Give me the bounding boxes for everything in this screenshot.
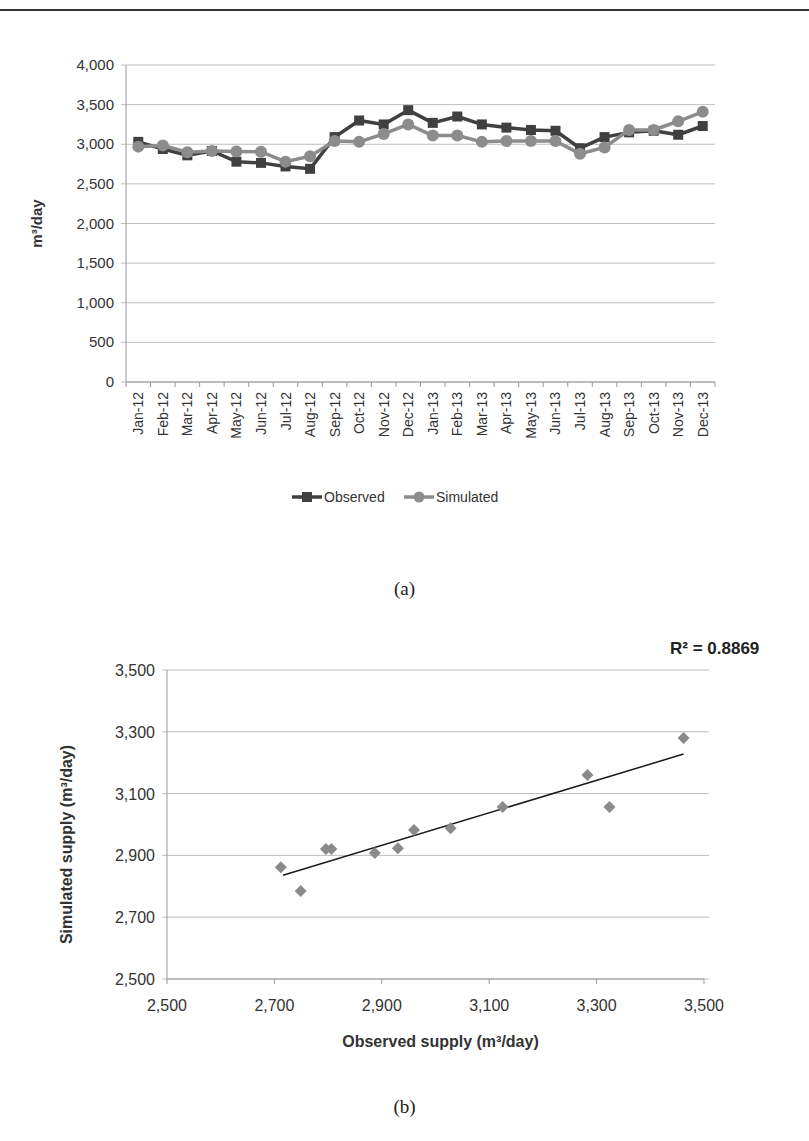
y-tick-label: 3,100 — [115, 786, 155, 803]
x-tick-label: Feb-13 — [449, 392, 465, 437]
x-tick-label: 2,900 — [362, 997, 402, 1014]
data-point — [329, 135, 341, 147]
x-tick-label: Jul-12 — [278, 392, 294, 430]
x-tick-label: May-12 — [228, 392, 244, 439]
y-tick-label: 3,000 — [76, 135, 114, 152]
series-observed — [133, 105, 707, 174]
data-point — [157, 139, 169, 151]
data-point — [672, 115, 684, 127]
y-axis-label: Simulated supply (m³/day) — [58, 745, 75, 944]
x-tick-label: Jun-13 — [547, 392, 563, 435]
page-top-rule — [0, 9, 809, 11]
caption-a: (a) — [0, 578, 809, 600]
x-tick-label: Mar-13 — [474, 392, 490, 437]
caption-b: (b) — [0, 1096, 809, 1118]
y-tick-label: 2,700 — [115, 909, 155, 926]
data-point — [305, 164, 315, 174]
y-tick-label: 3,500 — [115, 662, 155, 679]
x-tick-label: 3,300 — [577, 997, 617, 1014]
data-point — [231, 157, 241, 167]
line-chart-observed-vs-simulated: 05001,0001,5002,0002,5003,0003,5004,000J… — [0, 50, 809, 520]
x-tick-label: Apr-12 — [204, 392, 220, 434]
x-tick-label: May-13 — [523, 392, 539, 439]
diamond-marker-icon — [603, 801, 615, 813]
data-point — [525, 135, 537, 147]
y-tick-label: 3,500 — [76, 96, 114, 113]
data-point — [673, 130, 683, 140]
data-point — [697, 106, 709, 118]
data-point — [402, 118, 414, 130]
data-point — [256, 158, 266, 168]
x-tick-label: Nov-13 — [670, 392, 686, 437]
x-tick-label: Sep-12 — [327, 392, 343, 437]
x-tick-label: Mar-12 — [179, 392, 195, 437]
data-point — [623, 124, 635, 136]
x-tick-label: Jun-12 — [253, 392, 269, 435]
y-axis-label: m³/day — [28, 199, 45, 248]
data-point — [280, 156, 292, 168]
y-tick-label: 3,300 — [115, 724, 155, 741]
y-tick-label: 2,500 — [76, 175, 114, 192]
x-axis-label: Observed supply (m³/day) — [342, 1033, 539, 1050]
legend-item-simulated: Simulated — [404, 489, 498, 505]
x-tick-label: 2,500 — [147, 997, 187, 1014]
data-point — [600, 132, 610, 142]
x-tick-label: Jan-13 — [425, 392, 441, 435]
x-tick-label: Apr-13 — [498, 392, 514, 434]
diamond-marker-icon — [392, 842, 404, 854]
data-point — [549, 135, 561, 147]
data-point — [526, 125, 536, 135]
data-point — [132, 141, 144, 153]
y-tick-label: 2,500 — [115, 971, 155, 988]
data-point — [354, 115, 364, 125]
data-point — [230, 145, 242, 157]
diamond-marker-icon — [295, 885, 307, 897]
y-tick-label: 2,000 — [76, 215, 114, 232]
data-point — [206, 145, 218, 157]
y-tick-label: 500 — [89, 333, 114, 350]
data-point — [452, 112, 462, 122]
x-tick-label: Feb-12 — [155, 392, 171, 437]
data-point — [304, 150, 316, 162]
data-point — [451, 130, 463, 142]
scatter-chart-observed-vs-simulated: 2,5002,7002,9003,1003,3003,5002,5002,700… — [0, 630, 809, 1070]
data-point — [255, 146, 267, 158]
data-point — [477, 119, 487, 129]
y-tick-label: 1,500 — [76, 254, 114, 271]
x-tick-label: Dec-13 — [695, 392, 711, 437]
y-tick-label: 4,000 — [76, 56, 114, 73]
diamond-marker-icon — [275, 861, 287, 873]
legend-label: Observed — [324, 489, 385, 505]
y-tick-label: 0 — [106, 373, 114, 390]
square-marker-icon — [302, 492, 312, 502]
x-tick-label: Jul-13 — [572, 392, 588, 430]
data-point — [501, 123, 511, 133]
x-tick-label: Nov-12 — [376, 392, 392, 437]
legend-item-observed: Observed — [292, 489, 385, 505]
data-point — [379, 119, 389, 129]
x-tick-label: Aug-12 — [302, 392, 318, 437]
x-tick-label: 3,500 — [684, 997, 724, 1014]
data-point — [403, 105, 413, 115]
trendline — [283, 754, 684, 875]
y-tick-label: 2,900 — [115, 847, 155, 864]
legend: ObservedSimulated — [292, 489, 498, 505]
diamond-marker-icon — [497, 801, 509, 813]
data-point — [378, 128, 390, 140]
x-tick-label: Oct-12 — [351, 392, 367, 434]
data-point — [648, 124, 660, 136]
diamond-marker-icon — [581, 769, 593, 781]
data-point — [427, 130, 439, 142]
y-tick-label: 1,000 — [76, 294, 114, 311]
data-point — [181, 146, 193, 158]
data-point — [428, 118, 438, 128]
data-point — [476, 136, 488, 148]
x-tick-label: 3,100 — [469, 997, 509, 1014]
x-tick-label: Oct-13 — [646, 392, 662, 434]
data-point — [550, 126, 560, 136]
legend-label: Simulated — [436, 489, 498, 505]
data-point — [500, 135, 512, 147]
data-point — [353, 136, 365, 148]
data-point — [698, 121, 708, 131]
x-tick-label: Aug-13 — [597, 392, 613, 437]
